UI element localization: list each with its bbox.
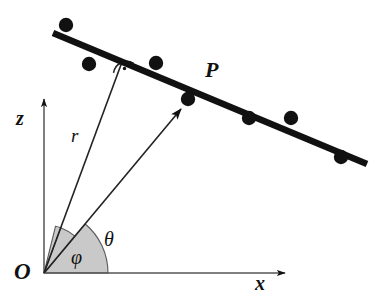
- data-point-group: [59, 18, 348, 164]
- origin-label: O: [14, 260, 31, 283]
- radius-label: r: [71, 126, 78, 145]
- figure-canvas: z x O r P θ φ: [0, 0, 387, 307]
- right-angle-dot-icon: [123, 67, 126, 70]
- theta-label: θ: [104, 229, 114, 249]
- diagram-svg: [0, 0, 387, 307]
- data-point: [284, 111, 298, 125]
- z-axis-label: z: [16, 108, 24, 128]
- data-point: [59, 18, 73, 32]
- data-point: [242, 111, 256, 125]
- plane-line-P: [53, 33, 367, 164]
- data-point: [82, 57, 96, 71]
- phi-label: φ: [71, 247, 82, 267]
- data-point: [149, 56, 163, 70]
- plane-label: P: [205, 59, 218, 81]
- data-point: [334, 150, 348, 164]
- data-point: [181, 92, 195, 106]
- x-axis-label: x: [255, 273, 265, 293]
